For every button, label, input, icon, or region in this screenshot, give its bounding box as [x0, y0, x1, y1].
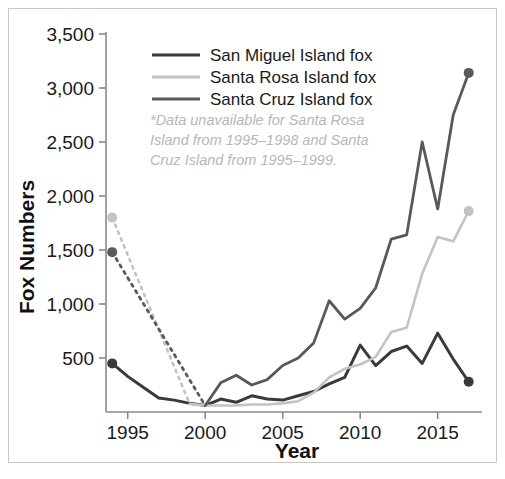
- annotation-line: Island from 1995–1998 and Santa: [150, 132, 368, 148]
- x-tick-label: 2000: [184, 422, 226, 443]
- series-end-marker: [464, 206, 474, 216]
- legend-label: Santa Rosa Island fox: [210, 68, 377, 87]
- chart-legend: San Miguel Island foxSanta Rosa Island f…: [152, 46, 377, 109]
- y-tick-label: 1,500: [46, 240, 94, 261]
- y-tick-label: 2,500: [46, 132, 94, 153]
- series-line: [107, 206, 474, 405]
- series-end-marker: [464, 68, 474, 78]
- legend-label: San Miguel Island fox: [210, 46, 373, 65]
- line-chart: 5001,0001,5002,0002,5003,0003,500 199520…: [0, 0, 505, 479]
- y-axis: 5001,0001,5002,0002,5003,0003,500: [46, 24, 106, 412]
- y-tick-label: 500: [62, 348, 94, 369]
- chart-figure: 5001,0001,5002,0002,5003,0003,500 199520…: [0, 0, 505, 479]
- series-dashed-segment: [112, 218, 190, 404]
- x-tick-label: 2010: [339, 422, 381, 443]
- series-dashed-segment: [112, 252, 205, 405]
- x-tick-label: 2015: [417, 422, 459, 443]
- series-start-marker: [107, 213, 117, 223]
- y-tick-label: 3,000: [46, 78, 94, 99]
- x-axis-title: Year: [275, 439, 319, 462]
- series-start-marker: [107, 247, 117, 257]
- legend-label: Santa Cruz Island fox: [210, 90, 373, 109]
- y-tick-label: 1,000: [46, 294, 94, 315]
- annotation-line: Cruz Island from 1995–1999.: [150, 152, 337, 168]
- annotation-line: *Data unavailable for Santa Rosa: [150, 112, 364, 128]
- x-tick-label: 1995: [107, 422, 149, 443]
- y-axis-title: Fox Numbers: [15, 180, 38, 314]
- y-tick-label: 3,500: [46, 24, 94, 45]
- series-line: [107, 333, 474, 405]
- series-start-marker: [107, 358, 117, 368]
- chart-annotation: *Data unavailable for Santa RosaIsland f…: [150, 112, 368, 168]
- y-tick-label: 2,000: [46, 186, 94, 207]
- series-end-marker: [464, 377, 474, 387]
